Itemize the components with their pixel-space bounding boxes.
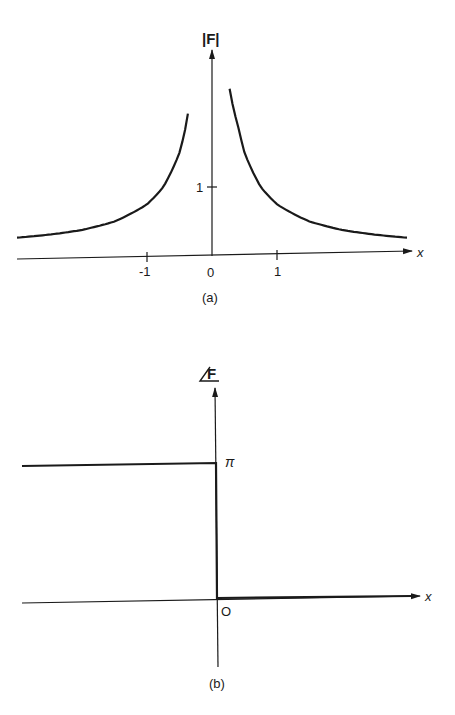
panel-b-origin-label: O	[221, 604, 231, 619]
panel-a-ylabel: |F|	[202, 30, 220, 47]
panel-a-xtick-label-neg1: -1	[139, 264, 151, 279]
panel-a-curve-right	[230, 89, 407, 238]
panel-b-level-label: π	[225, 454, 235, 470]
panel-a-xlabel: x	[416, 245, 424, 260]
panel-b-ylabel-text: F	[207, 365, 216, 382]
panel-a: |F| x -1 0 1 1 (a)	[17, 30, 424, 305]
panel-a-curve-left	[17, 114, 188, 238]
panel-b-caption: (b)	[209, 676, 225, 691]
panel-a-x-axis	[17, 251, 412, 259]
panel-a-xtick-label-0: 0	[207, 265, 214, 280]
panel-a-caption: (a)	[202, 290, 218, 305]
panel-b-xlabel: x	[424, 589, 432, 604]
panel-a-xtick-label-1: 1	[274, 264, 281, 279]
figure-canvas: |F| x -1 0 1 1 (a) F π O x (b)	[0, 0, 455, 715]
panel-b: F π O x (b)	[22, 365, 432, 691]
panel-b-ylabel: F	[200, 365, 219, 382]
panel-a-ytick-label-1: 1	[196, 180, 203, 195]
panel-b-phase-step	[22, 463, 412, 598]
